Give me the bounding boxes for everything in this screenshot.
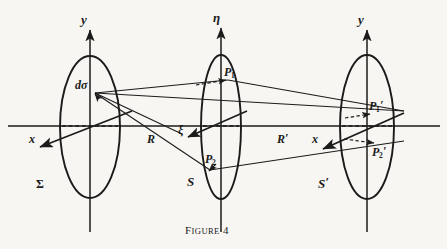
p2-prime-label: P2′ bbox=[372, 146, 386, 158]
d-sigma-label: dσ bbox=[75, 79, 87, 91]
aperture-s-label: S bbox=[187, 175, 194, 188]
x-axis-right-arrow bbox=[323, 113, 404, 149]
figure-caption: FIGURE 4 bbox=[185, 224, 229, 236]
R-prime-letter: R bbox=[277, 132, 285, 146]
aperture-s-prime-mark: ′ bbox=[325, 174, 329, 189]
ray-dsigma-to-p1prime-upper bbox=[95, 93, 404, 111]
eta-axis-label: η bbox=[213, 11, 220, 24]
diagram-canvas bbox=[0, 0, 447, 249]
caption-number: 4 bbox=[223, 224, 229, 236]
xi-axis-arrow bbox=[188, 111, 247, 137]
R-label: R bbox=[147, 133, 155, 145]
x-axis-left-arrow bbox=[40, 111, 132, 147]
p1-label: P1 bbox=[224, 66, 235, 78]
x-label-left: x bbox=[29, 133, 35, 145]
x-label-right: x bbox=[312, 133, 318, 145]
p2-subscript: 2 bbox=[212, 158, 216, 167]
aperture-s-prime-label: S′ bbox=[318, 177, 329, 190]
caption-rest: IGURE bbox=[192, 226, 220, 236]
figure-4-diagram: y η y Σ S S′ dσ P1 P2 P1′ P2′ R ξ R′ x x… bbox=[0, 0, 447, 249]
p1-prime-mark: ′ bbox=[380, 98, 383, 112]
y-axis-right-label: y bbox=[358, 13, 364, 26]
y-axis-left-label: y bbox=[81, 13, 87, 26]
R-prime-mark: ′ bbox=[285, 131, 288, 145]
p1-subscript: 1 bbox=[231, 71, 235, 80]
ray-dsigma-to-axis bbox=[95, 93, 182, 134]
p2-label: P2 bbox=[205, 153, 216, 165]
R-prime-label: R′ bbox=[277, 133, 288, 145]
dashed-pointer-p2-prime bbox=[344, 139, 374, 143]
aperture-sigma-label: Σ bbox=[36, 178, 44, 190]
p1-prime-label: P1′ bbox=[369, 100, 383, 112]
p2-prime-mark: ′ bbox=[383, 144, 386, 158]
xi-label: ξ bbox=[178, 124, 183, 136]
